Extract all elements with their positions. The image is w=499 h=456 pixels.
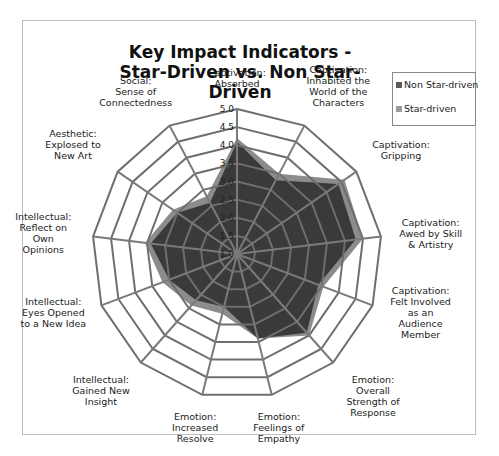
axis-label: Captivation:Inhabited theWorld of theCha… [307,64,371,108]
legend-item-non-star-driven: Non Star-driven [396,79,478,90]
legend-swatch-icon [396,82,402,88]
tick-label: 1.5 [220,231,234,241]
tick-label: 4.5 [220,122,234,132]
axis-label: Captivation:Gripping [372,139,430,161]
tick-label: 2.5 [220,195,234,205]
axis-label: Emotion:IncreasedResolve [172,411,218,444]
axis-label: Captivation:Absorbed [208,67,266,89]
axis-label: Social:Sense ofConnectedness [99,75,172,108]
legend-swatch-icon [396,106,402,112]
radar-chart: 1.01.52.02.53.03.54.04.55.0Captivation:A… [0,0,499,456]
tick-label: 4.0 [220,140,235,150]
legend-label: Non Star-driven [404,79,478,90]
axis-label: Captivation:Felt Involvedas anAudienceMe… [390,285,451,340]
tick-label: 5.0 [220,104,235,114]
axis-label: Aesthetic:Explosed toNew Art [45,128,101,161]
axis-label: Intellectual:Gained NewInsight [72,374,130,407]
tick-label: 3.0 [220,177,235,187]
axis-label: Intellectual:Eyes Openedto a New Idea [21,296,87,329]
tick-label: 1.0 [220,249,235,259]
legend-item-star-driven: Star-driven [396,103,456,114]
axis-label: Emotion:Feelings ofEmpathy [253,411,305,444]
axis-label: Captivation:Awed by Skill& Artistry [399,217,462,250]
axis-label: Emotion:OverallStrength ofResponse [346,374,400,418]
chart-legend: Non Star-driven Star-driven [392,72,476,126]
tick-label: 2.0 [220,213,235,223]
axis-label: Intellectual:Reflect onOwnOpinions [15,211,71,255]
legend-label: Star-driven [404,103,456,114]
tick-label: 3.5 [220,158,234,168]
